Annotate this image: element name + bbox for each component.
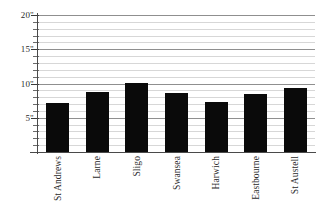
x-axis-category-label: Eastbourne [251, 156, 262, 200]
x-axis-category-label: St Austell [290, 156, 301, 194]
x-axis-label-slot: Eastbourne [244, 154, 267, 223]
x-axis-category-label: Harwich [211, 156, 222, 189]
bar-series [38, 15, 315, 152]
x-axis-category-label: Swansea [172, 156, 183, 190]
x-axis-label-slot: Swansea [165, 154, 188, 223]
x-axis-category-label: Larne [92, 156, 103, 179]
bar [165, 93, 188, 152]
bar-chart: 5"10"15"20" St AndrewsLarneSligoSwanseaH… [0, 0, 327, 223]
x-axis-category-label: Sligo [132, 156, 143, 177]
x-axis-label-slot: Sligo [125, 154, 148, 223]
bar [86, 92, 109, 152]
y-axis-label: 10" [21, 79, 34, 88]
y-axis-label: 20" [21, 11, 34, 20]
x-axis-label-slot: St Austell [284, 154, 307, 223]
bar [205, 102, 228, 152]
bar [244, 94, 267, 152]
y-axis-tick-labels: 5"10"15"20" [0, 0, 38, 223]
x-axis-label-slot: Larne [86, 154, 109, 223]
x-axis-category-labels: St AndrewsLarneSligoSwanseaHarwichEastbo… [38, 154, 315, 223]
x-axis-line [30, 152, 316, 153]
y-axis-label: 5" [25, 113, 34, 122]
bar [125, 83, 148, 152]
bar [46, 103, 69, 152]
y-axis-label: 15" [21, 45, 34, 54]
x-axis-label-slot: Harwich [205, 154, 228, 223]
bar [284, 88, 307, 152]
x-axis-category-label: St Andrews [53, 156, 64, 201]
x-axis-label-slot: St Andrews [46, 154, 69, 223]
